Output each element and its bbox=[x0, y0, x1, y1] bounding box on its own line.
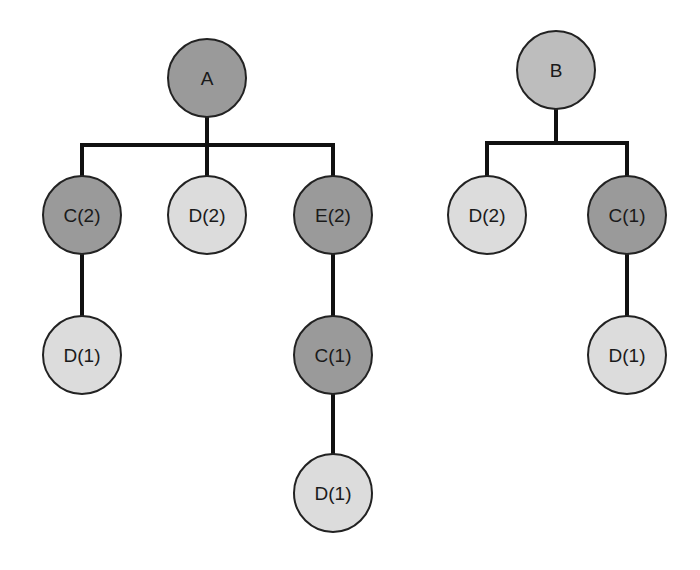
tree-node-a-c2-d1: D(1) bbox=[43, 316, 121, 394]
tree-node-b-c1: C(1) bbox=[588, 176, 666, 254]
tree-node-b-c1-d1: D(1) bbox=[588, 316, 666, 394]
node-label: B bbox=[550, 60, 563, 81]
node-label: C(1) bbox=[315, 345, 352, 366]
tree-node-b-d2: D(2) bbox=[448, 176, 526, 254]
node-label: E(2) bbox=[315, 205, 351, 226]
node-label: C(2) bbox=[64, 205, 101, 226]
tree-diagram: AC(2)D(2)E(2)D(1)C(1)D(1)BD(2)C(1)D(1) bbox=[0, 0, 700, 570]
tree-node-a: A bbox=[168, 39, 246, 117]
tree-node-b: B bbox=[517, 31, 595, 109]
node-label: D(1) bbox=[315, 483, 352, 504]
tree-node-a-e2: E(2) bbox=[294, 176, 372, 254]
node-label: C(1) bbox=[609, 205, 646, 226]
tree-node-a-d2: D(2) bbox=[168, 176, 246, 254]
node-label: D(1) bbox=[609, 345, 646, 366]
edges bbox=[82, 109, 627, 454]
tree-node-a-e2-c1: C(1) bbox=[294, 316, 372, 394]
tree-node-a-c2: C(2) bbox=[43, 176, 121, 254]
nodes: AC(2)D(2)E(2)D(1)C(1)D(1)BD(2)C(1)D(1) bbox=[43, 31, 666, 532]
node-label: D(2) bbox=[189, 205, 226, 226]
node-label: D(2) bbox=[469, 205, 506, 226]
tree-node-a-e2-c1-d1: D(1) bbox=[294, 454, 372, 532]
node-label: D(1) bbox=[64, 345, 101, 366]
node-label: A bbox=[201, 68, 214, 89]
